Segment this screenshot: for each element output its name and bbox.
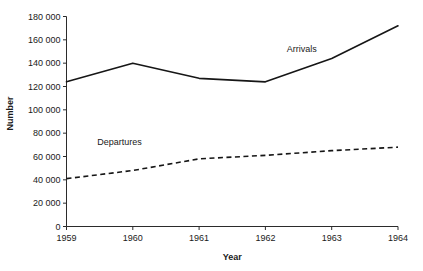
line-chart: 020 00040 00060 00080 000100 000120 0001… xyxy=(0,0,423,271)
series-label-arrivals: Arrivals xyxy=(287,44,318,54)
y-axis-ticks xyxy=(63,17,67,227)
x-axis-tick-labels: 195919601961196219631964 xyxy=(56,233,408,243)
x-tick-label: 1962 xyxy=(255,233,275,243)
y-axis: 020 00040 00060 00080 000100 000120 0001… xyxy=(5,12,67,232)
series-lines xyxy=(67,26,399,179)
y-tick-label: 60 000 xyxy=(33,152,61,162)
y-tick-label: 20 000 xyxy=(33,198,61,208)
x-axis-title: Year xyxy=(223,252,243,262)
y-tick-label: 40 000 xyxy=(33,175,61,185)
y-tick-label: 80 000 xyxy=(33,128,61,138)
x-axis: 195919601961196219631964 Year xyxy=(56,227,408,262)
x-tick-label: 1961 xyxy=(189,233,209,243)
y-axis-tick-labels: 020 00040 00060 00080 000100 000120 0001… xyxy=(28,12,61,232)
x-axis-ticks xyxy=(67,227,399,231)
chart-canvas: 020 00040 00060 00080 000100 000120 0001… xyxy=(0,0,423,271)
series-inline-labels: ArrivalsDepartures xyxy=(97,44,317,147)
x-tick-label: 1959 xyxy=(56,233,76,243)
y-tick-label: 140 000 xyxy=(28,58,61,68)
y-tick-label: 180 000 xyxy=(28,12,61,22)
series-line-departures xyxy=(67,147,399,179)
x-tick-label: 1963 xyxy=(322,233,342,243)
series-label-departures: Departures xyxy=(97,137,142,147)
y-tick-label: 120 000 xyxy=(28,82,61,92)
y-tick-label: 0 xyxy=(55,222,60,232)
series-line-arrivals xyxy=(67,26,399,82)
y-tick-label: 160 000 xyxy=(28,35,61,45)
y-axis-title: Number xyxy=(5,96,15,131)
x-tick-label: 1964 xyxy=(388,233,408,243)
y-tick-label: 100 000 xyxy=(28,105,61,115)
x-tick-label: 1960 xyxy=(123,233,143,243)
